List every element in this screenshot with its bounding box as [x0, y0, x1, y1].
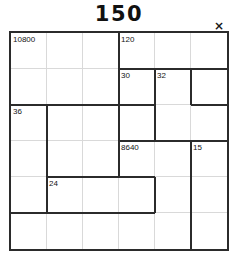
cage-30: 30: [121, 71, 130, 80]
cage-labels-layer: 1080012030323686401524: [11, 33, 227, 249]
cage-15: 15: [193, 143, 202, 152]
close-icon[interactable]: ×: [212, 19, 226, 33]
cage-10800: 10800: [13, 35, 35, 44]
puzzle-grid[interactable]: 1080012030323686401524: [11, 33, 227, 249]
cage-8640: 8640: [121, 143, 139, 152]
cage-120: 120: [121, 35, 134, 44]
cage-24: 24: [49, 179, 58, 188]
cage-32: 32: [157, 71, 166, 80]
page-title: 150: [0, 2, 238, 26]
cage-36: 36: [13, 107, 22, 116]
